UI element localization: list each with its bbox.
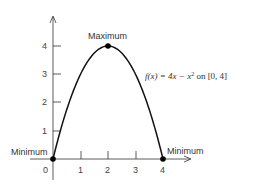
function-label: f(x) = 4x − x2 on [0, 4] [145,71,227,81]
y-tick-label: 1 [42,126,47,136]
y-tick-label: 4 [42,41,47,51]
y-tick-label: 3 [42,69,47,79]
maximum-label: Maximum [88,31,127,41]
x-tick-label: 4 [160,165,165,175]
y-ticks: 1 2 3 4 [42,41,61,136]
x-tick-label: 0 [43,165,48,175]
minimum-label-right: Minimum [167,146,204,156]
x-ticks: 0 1 2 3 4 [43,151,165,175]
x-tick-label: 3 [133,165,138,175]
y-tick-label: 2 [42,97,47,107]
minimum-point-right [160,156,166,162]
x-tick-label: 2 [105,165,110,175]
minimum-label-left: Minimum [11,147,48,157]
x-tick-label: 1 [78,165,83,175]
function-curve [53,46,163,159]
maximum-point [105,43,111,49]
minimum-point-left [50,156,56,162]
function-graph: 1 2 3 4 0 1 2 3 4 Maximum Minimum Minimu… [0,0,256,192]
